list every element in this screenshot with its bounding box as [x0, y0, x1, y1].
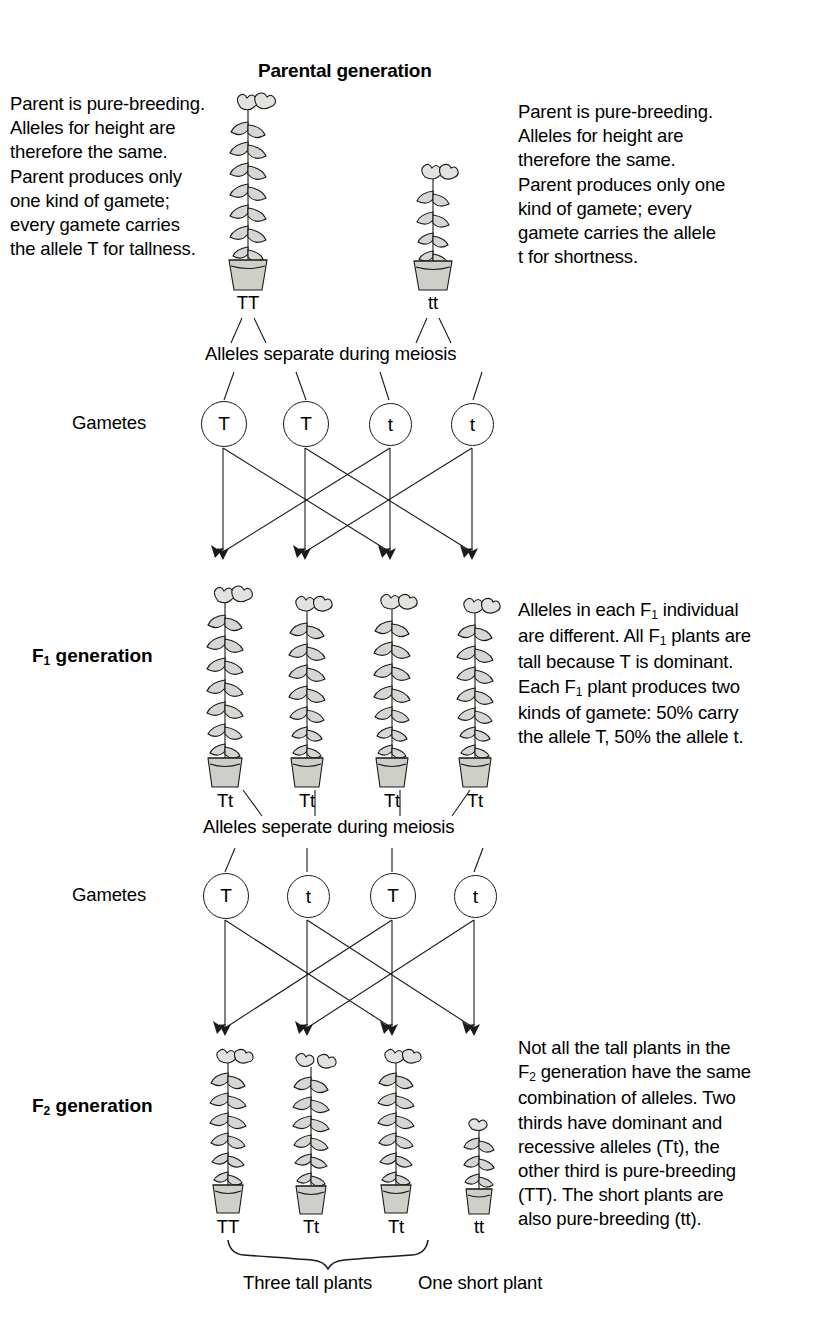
f2-description-line-6: (TT). The short plants are [518, 1183, 751, 1207]
page-title: Parental generation [258, 60, 432, 82]
gamete-allele-label: t [306, 886, 311, 908]
f1-description-line-5: the allele T, 50% the allele t. [518, 725, 751, 749]
f1-description-line-3: Each F1 plant produces two [518, 675, 751, 701]
parental-gametes-label: Gametes [72, 412, 146, 434]
parental-meiosis-label: Alleles separate during meiosis [205, 343, 456, 365]
plant-f1-3 [440, 597, 510, 790]
f2-label-main: F [32, 1095, 44, 1116]
gamete-parental-3: t [451, 403, 494, 446]
f2-label-sub: 2 [44, 1104, 51, 1118]
plant-parental-short-tt [398, 163, 468, 292]
gamete-parental-2: t [369, 403, 412, 446]
f2-description-line-7: also pure-breeding (tt). [518, 1207, 751, 1231]
three-tall-plants-caption: Three tall plants [243, 1272, 372, 1294]
f2-label-rest: generation [50, 1095, 152, 1116]
f1-meiosis-label: Alleles seperate during meiosis [203, 816, 454, 838]
f1-description-line-2: tall because T is dominant. [518, 650, 751, 674]
genotype-f1-1: Tt [272, 790, 342, 812]
gamete-allele-label: T [300, 413, 312, 435]
genotype-f2-2: Tt [361, 1216, 431, 1238]
f1-label-rest: generation [50, 645, 152, 666]
genetics-diagram-canvas: Parental generation Parent is pure-breed… [0, 0, 824, 1327]
plant-f2-0 [193, 1048, 263, 1216]
plant-f1-0 [190, 585, 260, 790]
gamete-f1-2: T [370, 873, 416, 919]
genotype-f1-3: Tt [440, 790, 510, 812]
gamete-allele-label: t [470, 414, 475, 436]
gamete-parental-0: T [201, 401, 247, 447]
genotype-f2-1: Tt [276, 1216, 346, 1238]
gamete-parental-1: T [283, 401, 329, 447]
f1-gametes-label: Gametes [72, 884, 146, 906]
f1-description-line-4: kinds of gamete: 50% carry [518, 701, 751, 725]
parental-right-description: Parent is pure-breeding. Alleles for hei… [518, 100, 818, 269]
genotype-parental-1: tt [398, 292, 468, 314]
f1-label-main: F [32, 645, 44, 666]
plant-parental-tall-TT [213, 92, 283, 292]
gamete-allele-label: T [387, 885, 399, 907]
f2-description-line-0: Not all the tall plants in the [518, 1036, 751, 1060]
plant-f1-1 [272, 595, 342, 790]
f1-description-line-0: Alleles in each F1 individual [518, 598, 751, 624]
genotype-f1-2: Tt [357, 790, 427, 812]
gamete-allele-label: T [218, 413, 230, 435]
f2-description: Not all the tall plants in the F2 genera… [518, 1036, 751, 1232]
gamete-f1-1: t [287, 875, 330, 918]
f2-description-line-5: other third is pure-breeding [518, 1159, 751, 1183]
gamete-allele-label: t [388, 414, 393, 436]
f1-description: Alleles in each F1 individual are differ… [518, 598, 751, 749]
one-short-plant-caption: One short plant [418, 1272, 542, 1294]
f1-description-line-1: are different. All F1 plants are [518, 624, 751, 650]
f2-description-line-3: thirds have dominant and [518, 1111, 751, 1135]
plant-f1-2 [357, 593, 427, 790]
gamete-f1-0: T [203, 873, 249, 919]
f1-label-sub: 1 [44, 654, 51, 668]
f2-description-line-1: F2 generation have the same [518, 1060, 751, 1086]
f2-description-line-2: combination of alleles. Two [518, 1086, 751, 1110]
gamete-allele-label: t [473, 886, 478, 908]
f1-generation-label: F1 generation [32, 645, 153, 667]
f2-generation-label: F2 generation [32, 1095, 153, 1117]
f2-description-line-4: recessive alleles (Tt), the [518, 1135, 751, 1159]
genotype-f1-0: Tt [190, 790, 260, 812]
genotype-f2-3: tt [444, 1216, 514, 1238]
genotype-f2-0: TT [193, 1216, 263, 1238]
genotype-parental-0: TT [213, 292, 283, 314]
gamete-allele-label: T [220, 885, 232, 907]
plant-f2-3-short [444, 1118, 514, 1216]
gamete-f1-3: t [454, 875, 497, 918]
plant-f2-2 [361, 1048, 431, 1216]
three-tall-plants-brace [228, 1240, 428, 1269]
plant-f2-1 [276, 1053, 346, 1216]
